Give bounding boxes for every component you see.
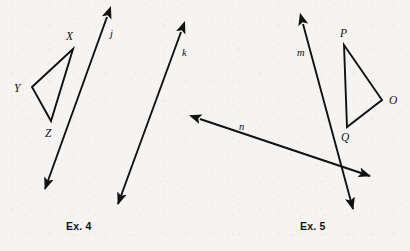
line-label-m: m <box>297 47 305 58</box>
vertex-label-x: X <box>65 30 74 42</box>
vertex-label-y: Y <box>14 82 22 94</box>
triangle-xyz <box>32 49 73 121</box>
figure-ex4: X Y Z j k <box>14 17 187 204</box>
line-label-j: j <box>108 28 113 39</box>
line-label-n: n <box>239 121 244 132</box>
vertex-label-q: Q <box>341 131 350 143</box>
line-k <box>118 32 181 204</box>
geometry-figure-page: X Y Z j k P O Q m n Ex. 4 Ex. 5 <box>0 0 410 251</box>
vertex-label-o: O <box>389 94 398 106</box>
line-label-k: k <box>182 47 187 58</box>
caption-ex5: Ex. 5 <box>300 220 326 232</box>
line-j <box>45 17 107 189</box>
geometry-canvas: X Y Z j k P O Q m n <box>0 0 410 251</box>
caption-ex4: Ex. 4 <box>66 220 92 232</box>
triangle-xyz-outline <box>32 49 73 121</box>
vertex-label-z: Z <box>45 127 52 139</box>
vertex-label-p: P <box>339 27 347 39</box>
triangle-pqo-outline <box>344 45 382 127</box>
triangle-pqo <box>344 45 382 127</box>
line-n <box>200 119 370 176</box>
figure-ex5: P O Q m n <box>200 24 398 209</box>
line-m <box>303 24 353 209</box>
